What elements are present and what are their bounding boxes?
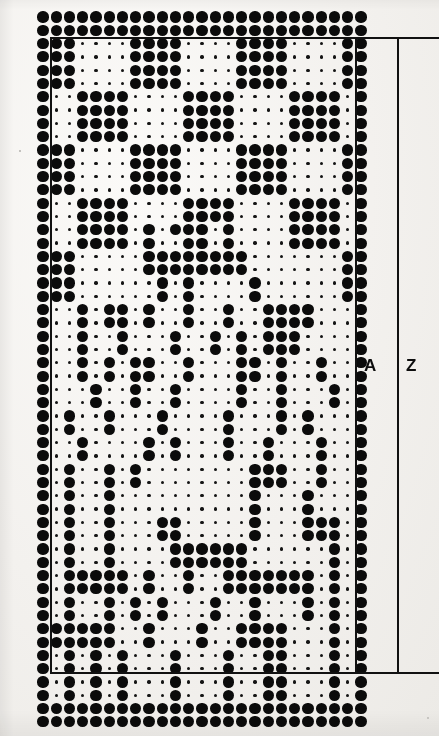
matrix-dot-small xyxy=(346,308,349,311)
matrix-dot-small xyxy=(94,268,97,271)
matrix-dot-small xyxy=(253,694,256,697)
matrix-dot-large xyxy=(64,690,75,701)
matrix-dot-large xyxy=(236,251,247,262)
matrix-dot-large xyxy=(37,171,48,182)
matrix-dot-large xyxy=(329,25,340,36)
matrix-dot-small xyxy=(187,507,190,510)
matrix-dot-small xyxy=(306,348,309,351)
matrix-dot-small xyxy=(55,494,58,497)
matrix-dot-small xyxy=(187,481,190,484)
matrix-dot-large xyxy=(329,583,340,594)
matrix-dot-large xyxy=(276,676,287,687)
matrix-dot-large xyxy=(276,331,287,342)
matrix-dot-large xyxy=(157,184,168,195)
matrix-dot-large xyxy=(117,570,128,581)
matrix-dot-small xyxy=(200,55,203,58)
matrix-dot-small xyxy=(280,547,283,550)
matrix-dot-large xyxy=(104,304,115,315)
matrix-dot-small xyxy=(94,255,97,258)
matrix-dot-large xyxy=(289,211,300,222)
matrix-dot-small xyxy=(346,428,349,431)
matrix-dot-large xyxy=(37,344,48,355)
matrix-dot-small xyxy=(108,175,111,178)
matrix-dot-small xyxy=(293,468,296,471)
matrix-dot-small xyxy=(280,95,283,98)
matrix-dot-large xyxy=(223,424,234,435)
matrix-dot-small xyxy=(293,534,296,537)
matrix-dot-large xyxy=(263,716,274,727)
inner-box-left-rule xyxy=(50,37,52,674)
matrix-dot-large xyxy=(302,198,313,209)
matrix-dot-small xyxy=(214,587,217,590)
matrix-dot-small xyxy=(134,507,137,510)
matrix-dot-small xyxy=(161,241,164,244)
matrix-dot-large xyxy=(37,690,48,701)
matrix-dot-small xyxy=(174,374,177,377)
matrix-dot-small xyxy=(94,547,97,550)
matrix-dot-large xyxy=(90,703,101,714)
matrix-dot-small xyxy=(346,561,349,564)
matrix-dot-small xyxy=(346,680,349,683)
matrix-dot-small xyxy=(306,188,309,191)
matrix-dot-large xyxy=(170,437,181,448)
matrix-dot-small xyxy=(227,481,230,484)
matrix-dot-large xyxy=(64,171,75,182)
matrix-dot-large xyxy=(249,570,260,581)
matrix-dot-small xyxy=(346,108,349,111)
matrix-dot-small xyxy=(200,454,203,457)
matrix-dot-large xyxy=(289,198,300,209)
matrix-dot-large xyxy=(170,25,181,36)
matrix-dot-small xyxy=(55,361,58,364)
matrix-dot-large xyxy=(276,11,287,22)
matrix-dot-small xyxy=(240,228,243,231)
matrix-dot-small xyxy=(187,188,190,191)
matrix-dot-small xyxy=(200,468,203,471)
matrix-dot-large xyxy=(316,450,327,461)
matrix-dot-large xyxy=(196,264,207,275)
matrix-dot-small xyxy=(214,281,217,284)
matrix-dot-large xyxy=(157,78,168,89)
matrix-dot-large xyxy=(249,38,260,49)
matrix-dot-large xyxy=(210,251,221,262)
matrix-dot-large xyxy=(170,676,181,687)
matrix-dot-large xyxy=(276,144,287,155)
matrix-dot-small xyxy=(108,281,111,284)
matrix-dot-small xyxy=(320,680,323,683)
matrix-dot-large xyxy=(170,158,181,169)
matrix-dot-small xyxy=(174,108,177,111)
matrix-dot-small xyxy=(94,441,97,444)
matrix-dot-large xyxy=(263,650,274,661)
matrix-dot-large xyxy=(276,583,287,594)
matrix-dot-small xyxy=(280,295,283,298)
matrix-dot-small xyxy=(200,308,203,311)
matrix-dot-small xyxy=(267,388,270,391)
matrix-dot-small xyxy=(187,348,190,351)
matrix-dot-small xyxy=(200,494,203,497)
matrix-dot-large xyxy=(170,251,181,262)
matrix-dot-small xyxy=(214,188,217,191)
matrix-dot-large xyxy=(316,437,327,448)
matrix-dot-small xyxy=(240,601,243,604)
matrix-dot-large xyxy=(157,251,168,262)
matrix-dot-large xyxy=(37,597,48,608)
matrix-dot-large xyxy=(64,277,75,288)
matrix-dot-large xyxy=(210,610,221,621)
matrix-dot-small xyxy=(214,388,217,391)
matrix-dot-small xyxy=(320,281,323,284)
matrix-dot-small xyxy=(280,534,283,537)
matrix-dot-small xyxy=(121,627,124,630)
matrix-dot-small xyxy=(227,627,230,630)
matrix-dot-small xyxy=(134,694,137,697)
matrix-dot-small xyxy=(240,667,243,670)
matrix-dot-large xyxy=(355,291,366,302)
matrix-dot-small xyxy=(187,468,190,471)
matrix-dot-small xyxy=(68,202,71,205)
matrix-dot-large xyxy=(276,304,287,315)
matrix-dot-small xyxy=(161,361,164,364)
matrix-dot-large xyxy=(236,344,247,355)
matrix-dot-large xyxy=(329,198,340,209)
matrix-dot-small xyxy=(306,547,309,550)
matrix-dot-small xyxy=(68,348,71,351)
matrix-dot-small xyxy=(267,414,270,417)
matrix-dot-large xyxy=(90,637,101,648)
